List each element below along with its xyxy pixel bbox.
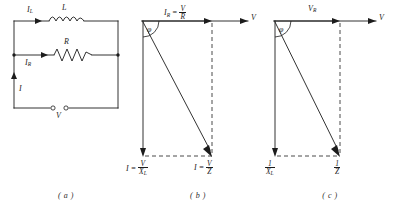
panel-circuit-diagram: IL L R IR I V ( a ) <box>0 0 132 204</box>
arrow-inductor-current <box>35 18 42 24</box>
label-voltage-axis: V <box>251 14 256 22</box>
arrow-voltage-axis <box>368 18 376 24</box>
phasor-arrowheads <box>272 18 376 157</box>
label-resistor-current: IR <box>25 59 31 68</box>
label-inductor-current: IL <box>27 6 33 15</box>
phasor-admittance <box>275 22 338 150</box>
label-admittance: 1Z <box>334 160 340 177</box>
source-terminal-right <box>64 106 68 110</box>
label-voltage-axis: V <box>379 14 384 22</box>
source-terminal-left <box>51 106 55 110</box>
label-angle-phi: φ <box>279 25 283 34</box>
phasor-arrowheads <box>140 18 248 157</box>
arrow-resistor-voltage <box>332 18 340 24</box>
current-phasor-svg <box>132 0 264 180</box>
caption-panel-b: ( b ) <box>132 191 264 200</box>
arrow-admittance <box>331 145 340 157</box>
current-arrowheads <box>11 18 48 79</box>
arrow-total-current <box>203 145 212 157</box>
label-total-current-expression: I = VZ <box>194 160 213 177</box>
node-dot-right <box>116 53 119 56</box>
inductor-symbol <box>49 17 84 21</box>
caption-panel-a: ( a ) <box>0 191 132 200</box>
arrow-resistor-current <box>41 52 48 58</box>
label-inductor-current-expression: I = VXL <box>126 160 148 178</box>
arrow-voltage-axis <box>240 18 248 24</box>
node-dot-left <box>12 53 15 56</box>
label-angle-phi: φ <box>147 25 151 34</box>
phasor-total-current <box>143 22 210 150</box>
panel-admittance-diagram: VR V φ 1XL 1Z ( c ) <box>264 0 396 204</box>
label-inductive-susceptance: 1XL <box>265 160 275 178</box>
resistor-symbol <box>54 49 92 61</box>
label-resistor-current-expression: IR = VR <box>164 5 186 22</box>
label-source-voltage: V <box>56 112 61 120</box>
label-inductor: L <box>62 4 66 12</box>
admittance-phasor-svg <box>264 0 396 180</box>
arrow-total-current <box>11 72 17 79</box>
arrow-resistor-current <box>204 18 212 24</box>
label-resistor-voltage: VR <box>308 5 316 14</box>
figure-container: IL L R IR I V ( a ) <box>0 0 396 204</box>
panel-current-phasor: IR = VR V φ I = VXL I = VZ ( b ) <box>132 0 264 204</box>
label-resistor: R <box>64 38 69 46</box>
label-total-current: I <box>19 85 22 93</box>
caption-panel-c: ( c ) <box>264 191 396 200</box>
